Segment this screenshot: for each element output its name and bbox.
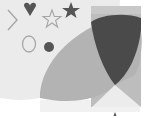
abstract-illustration [0, 0, 148, 118]
illustration-svg [0, 0, 148, 118]
dark-dot [44, 42, 54, 52]
rectangle-top-band [91, 6, 141, 14]
